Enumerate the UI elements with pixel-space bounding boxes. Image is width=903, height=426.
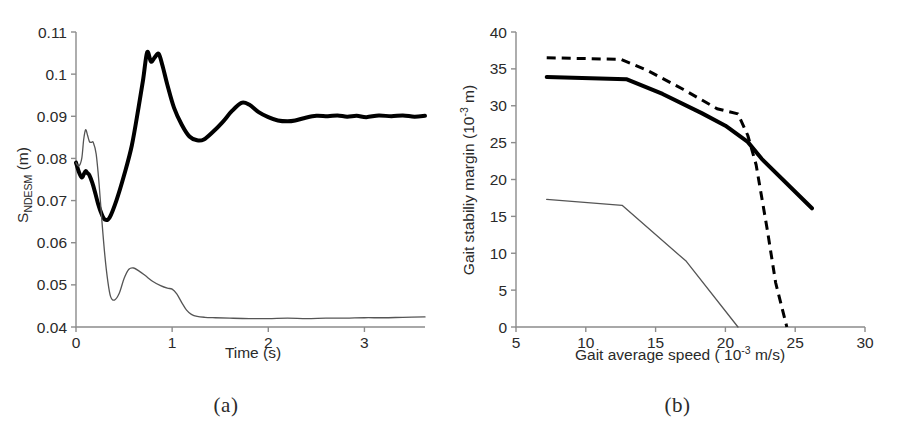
- x-tick-label: 1: [168, 334, 177, 351]
- chart-a-x-axis-title: Time (s): [225, 344, 281, 361]
- y-tick-label: 0: [498, 319, 507, 336]
- panel-a: 0.040.050.060.070.080.090.10.11 0123 Tim…: [0, 0, 452, 426]
- y-tick-label: 0.09: [37, 108, 67, 125]
- panel-b: 0510152025303540 51015202530 Gait averag…: [452, 0, 903, 426]
- chart-a-y-axis-title: SNDESM (m): [14, 147, 34, 223]
- y-tick-label: 0.04: [37, 319, 68, 336]
- chart-a-y-tick-labels: 0.040.050.060.070.080.090.10.11: [37, 24, 68, 336]
- data-series-thick-curve: [76, 52, 425, 220]
- y-tick-label: 40: [490, 24, 508, 41]
- svg-text:Gait stabiliy margin (10-3 m): Gait stabiliy margin (10-3 m): [458, 85, 477, 275]
- x-tick-label: 0: [72, 334, 81, 351]
- x-tick-label: 25: [787, 334, 804, 351]
- chart-b-y-axis-title: Gait stabiliy margin (10-3 m): [458, 85, 477, 275]
- panel-b-caption: (b): [452, 393, 903, 418]
- y-axis-title-pre: Gait stabiliy margin (10: [460, 116, 477, 275]
- chart-a-x-tick-labels: 0123: [72, 334, 369, 351]
- chart-b-x-axis-title: Gait average speed ( 10-3 m/s): [575, 344, 785, 363]
- x-axis-title-pre: Gait average speed ( 10: [575, 346, 742, 363]
- y-tick-label: 0.05: [37, 276, 67, 293]
- y-tick-label: 5: [498, 282, 507, 299]
- data-series-thick-solid: [547, 77, 812, 208]
- panel-a-caption: (a): [0, 393, 452, 418]
- y-tick-label: 20: [490, 171, 508, 188]
- y-tick-label: 0.1: [45, 66, 67, 83]
- y-tick-label: 30: [490, 97, 508, 114]
- y-axis-title-unit: (m): [14, 147, 31, 175]
- y-tick-label: 0.07: [37, 192, 67, 209]
- chart-b-y-tick-labels: 0510152025303540: [490, 24, 508, 336]
- y-tick-label: 0.08: [37, 150, 67, 167]
- y-axis-title-subscript: NDESM: [22, 175, 34, 213]
- chart-b-svg: 0510152025303540 51015202530 Gait averag…: [452, 0, 903, 370]
- chart-b-series: [547, 58, 812, 327]
- y-tick-label: 35: [490, 60, 507, 77]
- y-tick-label: 0.11: [38, 24, 67, 41]
- data-series-thin-solid: [547, 199, 738, 327]
- x-axis-title-post: m/s): [751, 346, 785, 363]
- x-tick-label: 3: [360, 334, 369, 351]
- y-tick-label: 15: [490, 208, 507, 225]
- x-tick-label: 30: [856, 334, 874, 351]
- svg-text:SNDESM (m): SNDESM (m): [14, 147, 34, 223]
- figure-container: 0.040.050.060.070.080.090.10.11 0123 Tim…: [0, 0, 903, 426]
- y-tick-label: 10: [490, 245, 508, 262]
- y-tick-label: 25: [490, 134, 507, 151]
- y-axis-title-exponent: -3: [458, 107, 470, 116]
- x-tick-label: 5: [512, 334, 521, 351]
- y-axis-title-main: S: [14, 213, 31, 223]
- y-tick-label: 0.06: [37, 234, 67, 251]
- x-axis-title-exponent: -3: [741, 344, 750, 356]
- y-axis-title-post: m): [460, 85, 477, 107]
- chart-a-series: [76, 52, 425, 319]
- chart-a-svg: 0.040.050.060.070.080.090.10.11 0123 Tim…: [0, 0, 452, 370]
